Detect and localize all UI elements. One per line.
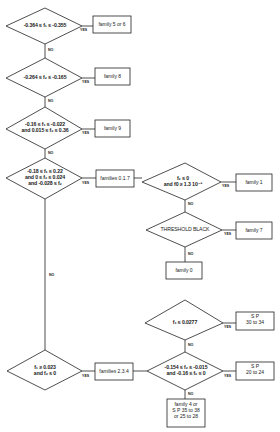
result-r9: S P 30 to 34 [236,314,274,326]
result-r4: families 0.1.7 [96,176,134,182]
yes-label: YES [80,28,87,32]
decision-d6: THRESHOLD BLACK [148,227,222,233]
result-r3: family 9 [95,126,130,132]
yes-label: YES [224,374,231,378]
yes-label: YES [82,131,89,135]
result-r11-line3: or 25 to 28 [167,414,205,420]
decision-d3: -0.16 ≤ f₁ ≤ -0.022 and 0.015 ≤ f₂ ≤ 0.3… [8,122,82,134]
decision-d8-text: f₁ ≤ 0.0277 [173,319,197,325]
decision-d1: -0.364 ≤ f₁ ≤ -0.355 [8,23,82,29]
decision-d7-line2: and f₂ ≤ 0 [9,371,81,377]
result-r9-line2: 30 to 34 [236,320,274,326]
yes-label: YES [222,184,229,188]
result-r10-line2: 20 to 24 [236,370,274,376]
decision-d2-text: -0.264 ≤ f₂ ≤ -0.165 [24,74,67,80]
no-label: NO [48,48,53,52]
result-r7: family 0 [166,268,202,274]
decision-d9-line2: and -0.16 ≤ f₂ ≤ 0 [150,371,222,377]
decision-d3-line2: and 0.015 ≤ f₂ ≤ 0.36 [8,128,82,134]
no-label: NO [49,273,54,277]
no-label: NO [188,202,193,206]
decision-d9: -0.154 ≤ f₂ ≤ -0.015 and -0.16 ≤ f₂ ≤ 0 [150,365,222,377]
result-r11: family 4 or S P 35 to 38 or 25 to 28 [167,402,205,419]
decision-d8: f₁ ≤ 0.0277 [148,320,222,326]
no-label: NO [48,99,53,103]
result-r1: family 5 or 6 [93,22,131,28]
result-r5: family 1 [236,180,272,186]
yes-label: YES [224,325,231,329]
decision-d1-text: -0.364 ≤ f₁ ≤ -0.355 [24,22,67,28]
no-label: NO [48,151,53,155]
no-label: NO [188,392,193,396]
result-r2: family 8 [95,74,130,80]
no-label: NO [188,252,193,256]
yes-label: YES [82,374,89,378]
decision-d4: -0.18 ≤ f₁ ≤ 0.22 and 0 ≤ f₂ ≤ 0.024 and… [8,169,82,187]
result-r6: family 7 [236,228,272,234]
yes-label: YES [82,181,89,185]
decision-d6-text: THRESHOLD BLACK [161,226,210,232]
yes-label: YES [224,232,231,236]
decision-d4-line3: and -0.028 ≤ f₂ [8,181,82,187]
decision-d7: f₁ ≥ 0.023 and f₂ ≤ 0 [9,365,81,377]
decision-d5-line2: and f0 ≥ 1.3 10⁻³ [145,182,221,188]
yes-label: YES [82,80,89,84]
result-r8: families 2.3.4 [95,369,133,375]
decision-d5: f₂ ≤ 0 and f0 ≥ 1.3 10⁻³ [145,176,221,188]
decision-d2: -0.264 ≤ f₂ ≤ -0.165 [8,75,82,81]
result-r10: S P 20 to 24 [236,364,274,376]
no-label: NO [188,343,193,347]
